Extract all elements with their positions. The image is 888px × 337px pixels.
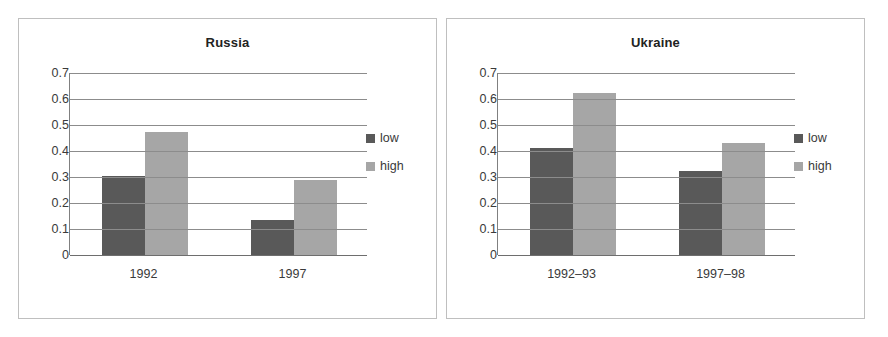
- bar-low-1997–98[interactable]: [679, 171, 722, 256]
- y-tick-label: 0.6: [480, 92, 497, 106]
- y-tick-label: 0: [62, 248, 69, 262]
- y-tick-label: 0.3: [52, 170, 69, 184]
- gridline: [70, 229, 367, 230]
- y-tick-label: 0.5: [52, 118, 69, 132]
- y-tick-label: 0.3: [480, 170, 497, 184]
- gridline: [70, 125, 367, 126]
- y-tick-label: 0.2: [52, 196, 69, 210]
- chart-panel-ukraine: Ukraine 0.70.60.50.40.30.20.10 1992–9319…: [446, 18, 865, 319]
- gridline: [70, 177, 367, 178]
- legend-swatch-high-icon: [366, 162, 375, 171]
- bar-high-1997[interactable]: [294, 180, 337, 255]
- gridline: [70, 73, 367, 74]
- bar-low-1997[interactable]: [251, 220, 294, 255]
- gridline: [70, 99, 367, 100]
- y-tick-label: 0.7: [480, 66, 497, 80]
- y-tick-label: 0.4: [52, 144, 69, 158]
- bars-layer-ukraine: [498, 73, 795, 255]
- y-tick-label: 0.1: [480, 222, 497, 236]
- y-tick-label: 0.5: [480, 118, 497, 132]
- chart-title-russia: Russia: [19, 35, 436, 50]
- bar-low-1992–93[interactable]: [530, 148, 573, 255]
- bar-low-1992[interactable]: [102, 176, 145, 255]
- legend-label-low: low: [808, 132, 827, 145]
- y-tick-label: 0.7: [52, 66, 69, 80]
- chart-title-ukraine: Ukraine: [447, 35, 864, 50]
- x-axis-labels-ukraine: 1992–931997–98: [497, 263, 795, 287]
- legend-swatch-low-icon: [366, 134, 375, 143]
- plot-area-ukraine: [497, 73, 795, 255]
- legend-item-low[interactable]: low: [366, 131, 422, 145]
- plot-area-russia: [69, 73, 367, 255]
- y-tick-label: 0.4: [480, 144, 497, 158]
- y-tick-label: 0: [490, 248, 497, 262]
- legend-label-high: high: [380, 160, 404, 173]
- legend-label-high: high: [808, 160, 832, 173]
- x-tick-label: 1997: [279, 267, 307, 281]
- legend-swatch-high-icon: [794, 162, 803, 171]
- bar-high-1992–93[interactable]: [573, 93, 616, 256]
- legend-label-low: low: [380, 132, 399, 145]
- legend-item-high[interactable]: high: [366, 159, 422, 173]
- legend-swatch-low-icon: [794, 134, 803, 143]
- legend-item-low[interactable]: low: [794, 131, 850, 145]
- x-axis-labels-russia: 19921997: [69, 263, 367, 287]
- figure-two-panel-bar-charts: Russia 0.70.60.50.40.30.20.10 19921997 l…: [0, 0, 888, 337]
- bar-high-1997–98[interactable]: [722, 143, 765, 255]
- x-tick-label: 1997–98: [696, 267, 745, 281]
- legend-item-high[interactable]: high: [794, 159, 850, 173]
- chart-panel-russia: Russia 0.70.60.50.40.30.20.10 19921997 l…: [18, 18, 437, 319]
- gridline: [70, 151, 367, 152]
- gridline: [498, 229, 795, 230]
- y-tick-label: 0.1: [52, 222, 69, 236]
- gridline: [498, 99, 795, 100]
- gridline: [498, 73, 795, 74]
- bars-layer-russia: [70, 73, 367, 255]
- legend-russia: low high: [366, 131, 422, 187]
- x-tick-label: 1992–93: [547, 267, 596, 281]
- gridline: [70, 255, 367, 256]
- x-tick-label: 1992: [130, 267, 158, 281]
- y-axis-ukraine: 0.70.60.50.40.30.20.10: [455, 73, 497, 255]
- y-tick-label: 0.2: [480, 196, 497, 210]
- gridline: [70, 203, 367, 204]
- legend-ukraine: low high: [794, 131, 850, 187]
- y-tick-label: 0.6: [52, 92, 69, 106]
- gridline: [498, 255, 795, 256]
- gridline: [498, 203, 795, 204]
- gridline: [498, 177, 795, 178]
- y-axis-russia: 0.70.60.50.40.30.20.10: [27, 73, 69, 255]
- gridline: [498, 125, 795, 126]
- gridline: [498, 151, 795, 152]
